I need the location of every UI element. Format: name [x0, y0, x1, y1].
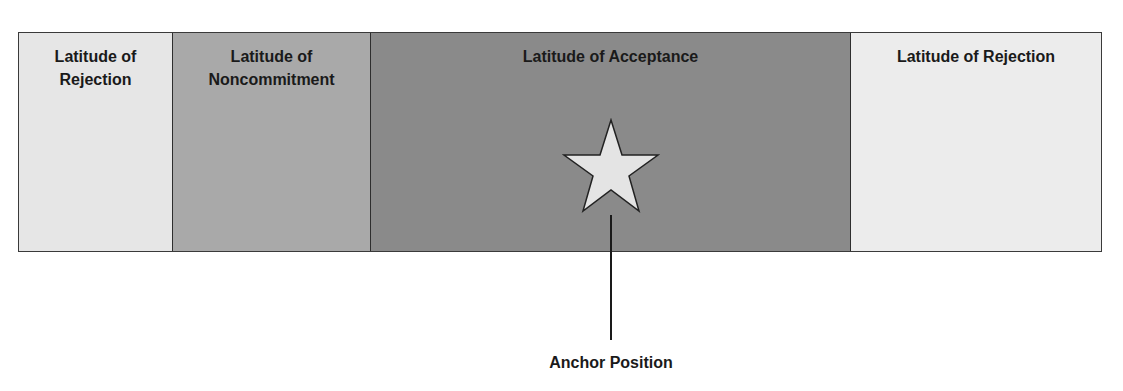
- zone-label: Latitude of Noncommitment: [173, 45, 370, 91]
- anchor-position-label: Anchor Position: [511, 354, 711, 372]
- star-icon: [562, 118, 660, 214]
- zone-label-line2: Noncommitment: [177, 68, 366, 91]
- latitude-spectrum-bar: Latitude of Rejection Latitude of Noncom…: [18, 32, 1102, 252]
- zone-label-line1: Latitude of: [23, 45, 168, 68]
- zone-label-line2: Rejection: [23, 68, 168, 91]
- zone-latitude-of-rejection-right: Latitude of Rejection: [851, 33, 1101, 251]
- anchor-pointer-line: [610, 215, 612, 340]
- zone-label: Latitude of Rejection: [19, 45, 172, 91]
- zone-latitude-of-noncommitment: Latitude of Noncommitment: [173, 33, 371, 251]
- zone-label: Latitude of Acceptance: [371, 45, 850, 68]
- zone-label-line1: Latitude of Acceptance: [375, 45, 846, 68]
- zone-latitude-of-rejection-left: Latitude of Rejection: [19, 33, 173, 251]
- zone-label: Latitude of Rejection: [851, 45, 1101, 68]
- zone-label-line1: Latitude of: [177, 45, 366, 68]
- zone-label-line1: Latitude of Rejection: [855, 45, 1097, 68]
